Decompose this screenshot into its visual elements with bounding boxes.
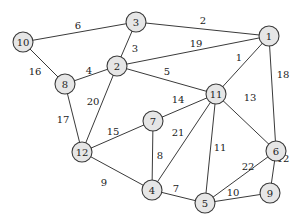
node-3: 3: [126, 12, 146, 32]
edge-weight-label: 22: [242, 161, 255, 172]
graph-diagram: 62163194511820171413152181122129710 1234…: [0, 0, 300, 224]
edge-12-4: [82, 152, 152, 190]
edge-weight-label: 17: [57, 114, 70, 125]
node-2: 2: [107, 56, 127, 76]
node-label: 2: [114, 61, 120, 72]
node-10: 10: [13, 32, 33, 52]
edge-weight-label: 7: [173, 183, 179, 194]
edge-weight-label: 14: [172, 94, 185, 105]
edge-weight-label: 1: [236, 52, 242, 63]
edge-weight-label: 9: [101, 177, 107, 188]
edge-weight-label: 21: [172, 127, 185, 138]
edge-weight-label: 16: [29, 66, 42, 77]
node-label: 8: [62, 79, 68, 90]
node-6: 6: [266, 141, 286, 161]
node-label: 9: [267, 188, 273, 199]
node-label: 5: [202, 198, 208, 209]
node-8: 8: [55, 74, 75, 94]
node-label: 1: [266, 31, 272, 42]
node-7: 7: [143, 111, 163, 131]
edge-weight-label: 6: [75, 20, 81, 31]
node-9: 9: [260, 183, 280, 203]
node-5: 5: [195, 193, 215, 213]
node-label: 3: [133, 17, 139, 28]
edge-weight-label: 19: [190, 38, 203, 49]
edge-weight-label: 13: [244, 92, 257, 103]
edge-weight-label: 2: [200, 15, 206, 26]
node-label: 7: [150, 116, 156, 127]
node-label: 4: [149, 185, 155, 196]
edge-weight-label: 8: [157, 150, 163, 161]
node-12: 12: [72, 142, 92, 162]
edge-weight-label: 4: [86, 65, 92, 76]
edge-weight-label: 10: [227, 187, 240, 198]
node-11: 11: [206, 84, 226, 104]
edge-11-4: [152, 94, 216, 190]
node-label: 11: [210, 89, 223, 100]
nodes-layer: 123456789101112: [13, 12, 286, 213]
edge-1-6: [269, 36, 276, 151]
edge-weight-label: 18: [277, 69, 290, 80]
node-label: 6: [273, 146, 279, 157]
node-label: 10: [17, 37, 30, 48]
edge-weight-label: 15: [107, 126, 120, 137]
edge-weight-label: 5: [164, 66, 170, 77]
edge-weight-label: 11: [214, 142, 227, 153]
edge-labels-layer: 62163194511820171413152181122129710: [29, 15, 290, 198]
node-1: 1: [259, 26, 279, 46]
edge-weight-label: 3: [132, 43, 138, 54]
node-label: 12: [76, 147, 89, 158]
edge-weight-label: 20: [87, 96, 100, 107]
node-4: 4: [142, 180, 162, 200]
